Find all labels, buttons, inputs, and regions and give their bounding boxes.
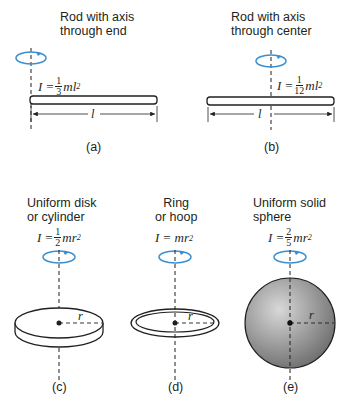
fraction: 25: [285, 227, 292, 248]
panel-c-formula: I = 12 mr2: [37, 227, 81, 248]
panel-e-label: (e): [283, 380, 298, 394]
radius-label: r: [309, 308, 314, 323]
panel-b-title: Rod with axis through center: [231, 10, 312, 38]
denominator: 2: [55, 238, 60, 248]
formula-rhs: mr: [62, 230, 76, 246]
fraction: 12: [54, 227, 61, 248]
denominator: 5: [286, 238, 291, 248]
title-line-1: Rod with axis: [231, 10, 312, 24]
panel-d-formula: I = mr2: [155, 230, 193, 246]
length-label: l: [258, 107, 261, 122]
denominator: 12: [294, 86, 304, 96]
length-label: l: [91, 107, 94, 122]
exponent: 2: [189, 234, 193, 243]
formula-lhs: I = mr: [155, 230, 189, 246]
panel-a-label: (a): [86, 140, 101, 154]
panel-c-title: Uniform disk or cylinder: [27, 196, 96, 224]
title-line-1: Rod with axis: [60, 10, 134, 24]
formula-rhs: ml: [305, 78, 318, 94]
panel-e-graphic: [245, 250, 335, 380]
formula-lhs: I =: [38, 79, 54, 95]
title-line-2: through center: [231, 24, 312, 38]
fraction: 112: [294, 75, 304, 96]
title-line-1: Uniform solid: [253, 196, 326, 210]
panel-d-graphic: [131, 250, 219, 380]
panel-d-title: Ring or hoop: [155, 196, 197, 224]
formula-lhs: I =: [268, 230, 284, 246]
panel-a-formula: I = 13 ml2: [38, 76, 80, 97]
title-line-2: through end: [60, 24, 134, 38]
title-line-2: sphere: [253, 210, 326, 224]
exponent: 2: [318, 81, 322, 90]
formula-rhs: ml: [63, 79, 76, 95]
exponent: 2: [76, 82, 80, 91]
panel-c-label: (c): [52, 380, 67, 394]
panel-b-formula: I = 112 ml2: [277, 75, 322, 96]
panel-c-graphic: [15, 250, 103, 380]
title-line-1: Uniform disk: [27, 196, 96, 210]
exponent: 2: [308, 233, 312, 242]
denominator: 3: [56, 87, 61, 97]
panel-b-label: (b): [264, 140, 279, 154]
radius-label: r: [78, 309, 83, 324]
formula-rhs: mr: [293, 230, 307, 246]
panel-e-formula: I = 25 mr2: [268, 227, 312, 248]
panel-a-title: Rod with axis through end: [60, 10, 134, 38]
exponent: 2: [77, 233, 81, 242]
panel-e-title: Uniform solid sphere: [253, 196, 326, 224]
radius-label: r: [188, 309, 193, 324]
formula-lhs: I =: [277, 78, 293, 94]
formula-lhs: I =: [37, 230, 53, 246]
panel-d-label: (d): [168, 380, 183, 394]
title-line-2: or hoop: [155, 210, 197, 224]
fraction: 13: [55, 76, 62, 97]
title-line-1: Ring: [155, 196, 197, 210]
title-line-2: or cylinder: [27, 210, 96, 224]
